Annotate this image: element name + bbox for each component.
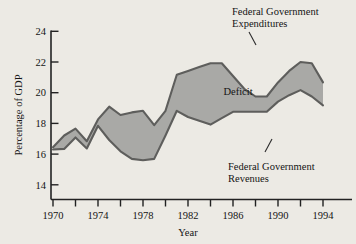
deficit-area-chart: 24 22 20 18 16 14 1970 1974 1 — [0, 0, 356, 244]
x-tick-label: 1986 — [223, 210, 244, 221]
x-tick-label: 1978 — [133, 210, 154, 221]
y-axis-title: Percentage of GDP — [13, 74, 24, 155]
x-tick-label: 1974 — [88, 210, 110, 221]
x-axis-title: Year — [178, 227, 198, 238]
deficit-area-label: Deficit — [223, 86, 252, 97]
chart-container: 24 22 20 18 16 14 1970 1974 1 — [0, 0, 356, 244]
y-tick-label: 24 — [36, 26, 47, 37]
chart-background — [0, 0, 356, 244]
revenues-callout-line1: Federal Government — [228, 161, 315, 172]
y-tick-label: 22 — [36, 57, 47, 68]
expenditures-callout-line1: Federal Government — [232, 6, 319, 17]
x-tick-label: 1970 — [43, 210, 64, 221]
y-tick-label: 14 — [36, 180, 47, 191]
x-tick-label: 1982 — [178, 210, 199, 221]
expenditures-callout-line2: Expenditures — [232, 18, 287, 29]
y-tick-label: 18 — [36, 118, 47, 129]
revenues-callout-line2: Revenues — [228, 173, 269, 184]
y-tick-label: 16 — [36, 149, 47, 160]
x-tick-label: 1994 — [313, 210, 335, 221]
x-tick-label: 1990 — [268, 210, 289, 221]
y-tick-label: 20 — [36, 87, 47, 98]
